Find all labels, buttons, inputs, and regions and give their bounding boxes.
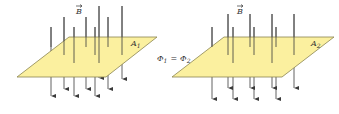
right-field-label: B bbox=[236, 7, 243, 16]
left-field-label: B bbox=[75, 7, 82, 16]
left-flux-panel: B A1 bbox=[17, 5, 157, 97]
magnetic-flux-diagram: B A1 Φ1=Φ2 B A2 bbox=[0, 0, 339, 114]
right-area-plane bbox=[172, 37, 334, 77]
right-flux-panel: B A2 bbox=[172, 5, 334, 100]
diagram-canvas: B A1 Φ1=Φ2 B A2 bbox=[0, 0, 339, 114]
flux-equality-label: Φ1=Φ2 bbox=[157, 54, 191, 64]
